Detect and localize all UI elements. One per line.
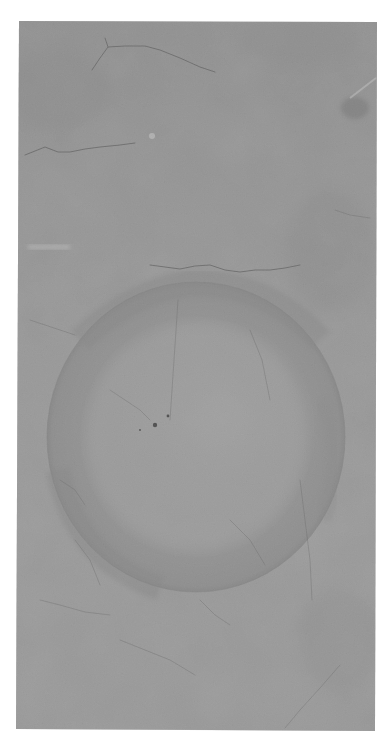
photo-frame: Photograph of a cracked grey concrete su… [0,0,392,756]
concrete-photo [0,0,392,756]
concrete-surface [0,0,392,756]
